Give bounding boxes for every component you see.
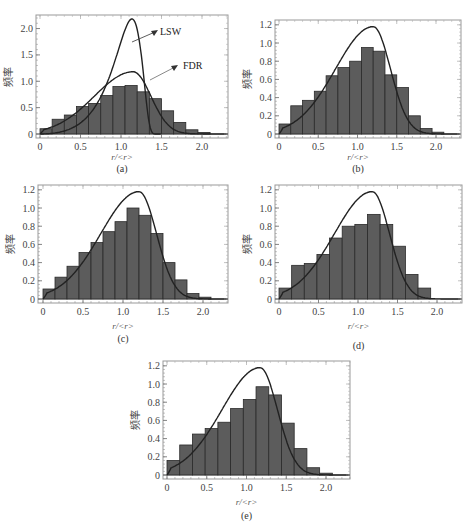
histogram-bar — [151, 233, 163, 299]
x-tick-label: 1.0 — [352, 306, 365, 317]
histogram-bar — [338, 68, 350, 134]
y-tick-label: 0 — [155, 470, 160, 481]
histogram-bar — [231, 409, 244, 475]
panel-caption: (a) — [116, 163, 127, 175]
y-tick-label: 0.8 — [260, 56, 273, 67]
histogram-bar — [269, 395, 282, 475]
x-tick-label: 1.5 — [391, 306, 404, 317]
histogram-bar — [355, 224, 368, 299]
x-tick-label: 0.5 — [74, 141, 87, 152]
panel-caption: (e) — [241, 510, 252, 522]
x-tick-label: 2.0 — [320, 482, 333, 493]
x-tick-label: 2.0 — [430, 141, 443, 152]
y-axis-label: 频率 — [2, 67, 14, 87]
y-tick-label: 0.6 — [148, 415, 161, 426]
histogram-bar — [373, 51, 385, 134]
x-tick-label: 1.0 — [117, 306, 130, 317]
histogram-bar — [218, 422, 231, 475]
histogram-bar — [397, 88, 409, 134]
panel-caption: (b) — [352, 163, 364, 175]
y-tick-label: 1.0 — [260, 38, 273, 49]
y-axis-label: 频率 — [4, 234, 16, 254]
y-tick-label: 0 — [30, 294, 35, 305]
x-tick-label: 0 — [277, 306, 282, 317]
chart-panel-a: 00.51.01.52.000.51.01.52.0频率r/<r>(a)LSWF… — [2, 15, 228, 175]
y-tick-label: 0.6 — [260, 239, 273, 250]
y-tick-label: 0.2 — [23, 275, 36, 286]
y-tick-label: 0.4 — [148, 433, 161, 444]
x-tick-label: 1.5 — [157, 306, 170, 317]
y-tick-label: 1.5 — [21, 49, 34, 60]
x-tick-label: 0 — [41, 306, 46, 317]
chart-panel-d: 00.20.40.60.81.01.200.51.01.52.0频率r/<r>(… — [241, 184, 462, 352]
y-tick-label: 0.5 — [21, 102, 34, 113]
y-tick-label: 0.2 — [260, 275, 273, 286]
histogram-bar — [180, 445, 193, 475]
y-tick-label: 0.2 — [148, 451, 161, 462]
histogram-bar — [380, 224, 393, 299]
fdr-annotation: FDR — [183, 60, 203, 71]
histogram-bar — [163, 263, 175, 299]
x-tick-label: 2.0 — [197, 306, 210, 317]
x-tick-label: 1.0 — [351, 141, 364, 152]
histogram-bar — [350, 61, 362, 134]
fdr-arrow — [150, 67, 175, 80]
histogram-bar — [342, 226, 355, 299]
y-tick-label: 1.0 — [148, 379, 161, 390]
y-tick-label: 1.2 — [260, 19, 273, 30]
lsw-arrow — [132, 32, 155, 42]
fdr-arrowhead-icon — [171, 65, 178, 71]
histogram-bar — [67, 266, 79, 299]
histogram-bar — [330, 238, 343, 299]
y-tick-label: 0.8 — [23, 221, 36, 232]
histogram-bar — [103, 232, 115, 299]
y-tick-label: 0.4 — [260, 257, 273, 268]
y-tick-label: 1.2 — [260, 184, 273, 195]
histogram-bar — [317, 254, 330, 299]
histogram-bar — [304, 264, 317, 299]
y-tick-label: 0.2 — [260, 110, 273, 121]
histogram-bar — [139, 215, 151, 299]
panel-caption: (d) — [353, 340, 365, 352]
histogram-bar — [361, 48, 373, 134]
x-tick-label: 0.5 — [77, 306, 90, 317]
histogram-bar — [256, 387, 269, 475]
y-tick-label: 0.6 — [260, 74, 273, 85]
histogram-bar — [125, 85, 137, 134]
x-axis-label: r/<r> — [347, 152, 369, 162]
chart-panel-b: 00.20.40.60.81.01.200.51.01.52.0频率r/<r>(… — [241, 19, 461, 175]
y-tick-label: 1.2 — [148, 360, 161, 371]
y-tick-label: 0 — [28, 129, 33, 140]
histogram-bar — [113, 87, 125, 134]
y-tick-label: 0.6 — [23, 239, 36, 250]
x-tick-label: 1.0 — [115, 141, 128, 152]
histogram-bar — [367, 214, 380, 299]
histogram-bar — [115, 222, 127, 299]
y-tick-label: 0 — [267, 294, 272, 305]
panel-caption: (c) — [117, 333, 128, 345]
y-tick-label: 1.0 — [260, 203, 273, 214]
x-tick-label: 0.5 — [312, 306, 325, 317]
y-tick-label: 1.0 — [23, 203, 36, 214]
x-tick-label: 1.5 — [280, 482, 293, 493]
x-tick-label: 0 — [277, 141, 282, 152]
x-tick-label: 0 — [165, 482, 170, 493]
y-tick-label: 0.4 — [260, 92, 273, 103]
histogram-bar — [91, 243, 103, 299]
x-tick-label: 0 — [38, 141, 43, 152]
y-axis-label: 频率 — [241, 234, 253, 254]
x-tick-label: 1.5 — [155, 141, 168, 152]
histogram-bar — [243, 399, 256, 475]
x-tick-label: 1.5 — [391, 141, 404, 152]
y-tick-label: 0.4 — [23, 257, 36, 268]
x-tick-label: 0.5 — [201, 482, 214, 493]
x-tick-label: 0.5 — [312, 141, 325, 152]
histogram-bar — [162, 111, 174, 134]
y-tick-label: 0 — [267, 129, 272, 140]
x-tick-label: 2.0 — [431, 306, 444, 317]
histogram-bar — [127, 208, 139, 299]
y-axis-label: 频率 — [241, 69, 253, 89]
x-axis-label: r/<r> — [112, 321, 134, 331]
chart-panel-c: 00.20.40.60.81.01.200.51.01.52.0频率r/<r>(… — [4, 184, 228, 345]
y-tick-label: 1.0 — [21, 76, 34, 87]
